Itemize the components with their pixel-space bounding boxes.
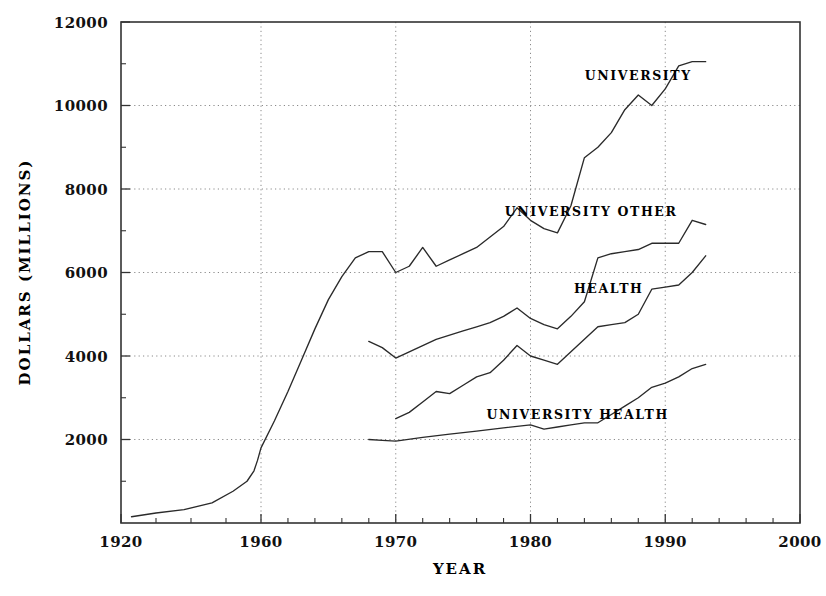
y-tick-label-6000: 6000 xyxy=(65,264,108,282)
line-chart-canvas: UNIVERSITYUNIVERSITY OTHERHEALTHUNIVERSI… xyxy=(0,0,826,596)
x-axis-title: YEAR xyxy=(432,560,487,578)
y-tick-label-8000: 8000 xyxy=(65,181,108,199)
x-tick-label-1990: 1990 xyxy=(644,533,687,551)
y-tick-label-2000: 2000 xyxy=(65,431,108,449)
chart-background xyxy=(0,0,826,596)
y-tick-label-10000: 10000 xyxy=(54,97,108,115)
y-tick-label-4000: 4000 xyxy=(65,348,108,366)
x-tick-label-1970: 1970 xyxy=(374,533,417,551)
series-label-university: UNIVERSITY xyxy=(585,68,692,83)
series-label-university-health: UNIVERSITY HEALTH xyxy=(487,407,669,422)
series-label-university-other: UNIVERSITY OTHER xyxy=(505,204,678,219)
x-tick-label-1920: 1920 xyxy=(99,533,142,551)
x-tick-label-2000: 2000 xyxy=(778,533,821,551)
x-tick-label-1960: 1960 xyxy=(239,533,282,551)
y-axis-title: DOLLARS (MILLIONS) xyxy=(16,159,34,386)
series-label-health: HEALTH xyxy=(574,281,644,296)
y-tick-label-12000: 12000 xyxy=(54,14,108,32)
x-tick-label-1980: 1980 xyxy=(509,533,552,551)
chart-figure: UNIVERSITYUNIVERSITY OTHERHEALTHUNIVERSI… xyxy=(0,0,826,596)
